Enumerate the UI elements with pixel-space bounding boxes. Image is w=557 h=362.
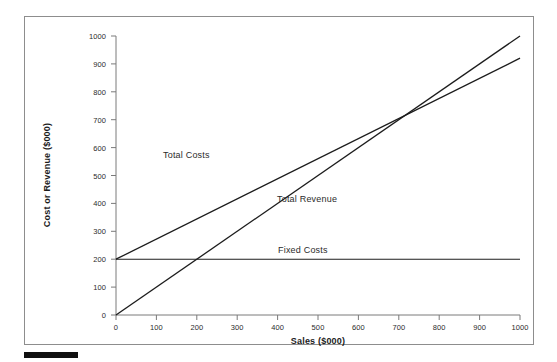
series-label-total-costs: Total Costs xyxy=(163,150,210,160)
footer-accent-bar xyxy=(24,352,78,358)
series-label-fixed-costs: Fixed Costs xyxy=(278,245,328,255)
x-tick-label-700: 700 xyxy=(392,323,405,332)
x-tick-label-800: 800 xyxy=(433,323,446,332)
x-tick-label-0: 0 xyxy=(114,323,118,332)
y-tick-label-800: 800 xyxy=(86,87,106,96)
y-tick-label-300: 300 xyxy=(86,227,106,236)
y-tick-label-100: 100 xyxy=(86,283,106,292)
x-tick-label-100: 100 xyxy=(150,323,163,332)
y-tick-label-400: 400 xyxy=(86,199,106,208)
y-tick-label-600: 600 xyxy=(86,143,106,152)
breakeven-chart-figure: 0 100 200 300 400 500 600 700 800 900 10… xyxy=(0,0,557,362)
y-axis-title: Cost or Revenue ($000) xyxy=(42,123,52,227)
x-tick-label-600: 600 xyxy=(352,323,365,332)
series-label-total-revenue: Total Revenue xyxy=(277,194,337,204)
x-tick-label-1000: 1000 xyxy=(511,323,528,332)
x-tick-label-300: 300 xyxy=(231,323,244,332)
plot-area xyxy=(0,0,557,362)
x-axis-ticks xyxy=(116,315,520,320)
x-tick-label-500: 500 xyxy=(312,323,325,332)
series-line-total-revenue xyxy=(116,36,520,315)
y-tick-label-1000: 1000 xyxy=(86,32,106,41)
y-tick-label-200: 200 xyxy=(86,255,106,264)
y-tick-label-900: 900 xyxy=(86,59,106,68)
x-tick-label-900: 900 xyxy=(473,323,486,332)
y-tick-label-700: 700 xyxy=(86,115,106,124)
x-tick-label-200: 200 xyxy=(190,323,203,332)
x-tick-label-400: 400 xyxy=(271,323,284,332)
y-tick-label-0: 0 xyxy=(86,311,106,320)
y-tick-label-500: 500 xyxy=(86,171,106,180)
y-axis-ticks xyxy=(111,36,116,315)
x-axis-title: Sales ($000) xyxy=(291,336,345,346)
